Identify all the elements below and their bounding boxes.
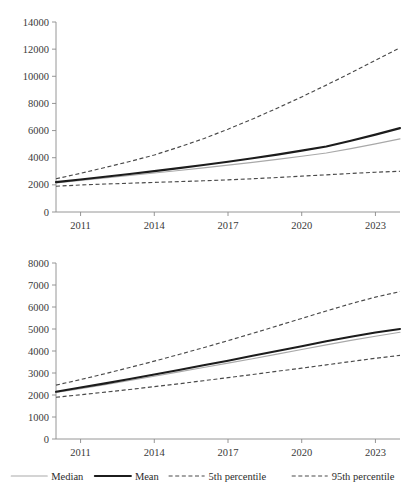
chart-svg-bottom: 0100020003000400050006000700080002011201… [0,250,417,460]
legend-label: 5th percentile [209,471,267,482]
x-tick-label: 2017 [218,447,239,458]
y-tick-label: 6000 [28,302,49,313]
y-tick-label: 5000 [28,324,49,335]
series-line-mean [56,329,400,392]
y-tick-label: 2000 [28,390,49,401]
chart-panel-top: 0200040006000800010000120001400020112014… [0,0,417,250]
y-tick-label: 3000 [28,368,49,379]
y-tick-label: 14000 [23,17,49,28]
axis-group: 0100020003000400050006000700080002011201… [28,258,400,458]
figure-container: 0200040006000800010000120001400020112014… [0,0,417,497]
series-group [56,292,400,398]
x-tick-label: 2017 [218,220,239,231]
legend-label: Mean [135,471,160,482]
legend-items: MedianMean5th percentile95th percentile [11,471,394,482]
x-tick-label: 2014 [144,220,166,231]
x-tick-label: 2023 [365,447,386,458]
series-line-p95 [56,48,400,179]
x-tick-label: 2011 [70,447,91,458]
y-tick-label: 8000 [28,98,49,109]
x-tick-label: 2020 [291,220,312,231]
y-tick-label: 1000 [28,412,49,423]
x-tick-label: 2014 [144,447,166,458]
y-tick-label: 2000 [28,179,49,190]
y-tick-label: 6000 [28,125,49,136]
y-tick-label: 4000 [28,346,49,357]
chart-panel-bottom: 0100020003000400050006000700080002011201… [0,250,417,460]
legend-label: 95th percentile [332,471,395,482]
series-group [56,48,400,186]
chart-svg-top: 0200040006000800010000120001400020112014… [0,0,417,250]
y-tick-label: 7000 [28,280,49,291]
x-tick-label: 2023 [365,220,386,231]
y-tick-label: 4000 [28,152,49,163]
legend-svg: MedianMean5th percentile95th percentile [0,462,417,492]
series-line-p5 [56,171,400,186]
y-tick-label: 8000 [28,258,49,269]
x-tick-label: 2011 [70,220,91,231]
y-tick-label: 10000 [23,71,49,82]
y-tick-label: 0 [44,434,49,445]
chart-legend: MedianMean5th percentile95th percentile [0,462,417,492]
legend-label: Median [51,471,84,482]
x-tick-label: 2020 [291,447,312,458]
series-line-p95 [56,292,400,386]
axis-group: 0200040006000800010000120001400020112014… [23,17,400,231]
y-tick-label: 0 [44,207,49,218]
y-tick-label: 12000 [23,44,49,55]
